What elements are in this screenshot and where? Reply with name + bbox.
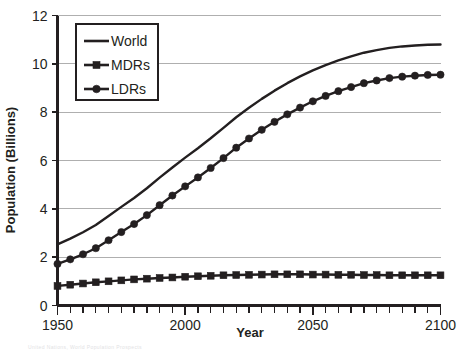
x-tick-label-2000: 2000: [170, 317, 201, 333]
chart-canvas: 024681012 1950200020502100 Year Populati…: [0, 0, 468, 350]
data-point: [424, 71, 431, 78]
legend-label-ldrs: LDRs: [111, 81, 146, 97]
data-point: [361, 272, 368, 279]
data-point: [67, 256, 74, 263]
x-tick-label-1950: 1950: [42, 317, 73, 333]
chart-background: [0, 0, 468, 350]
data-point: [79, 251, 86, 258]
data-point: [258, 126, 265, 133]
data-point: [220, 272, 227, 279]
data-point: [156, 275, 163, 282]
y-tick-label-8: 8: [40, 104, 48, 120]
data-point: [373, 77, 380, 84]
data-point: [335, 271, 342, 278]
data-point: [118, 277, 125, 284]
data-point: [80, 280, 87, 287]
data-point: [195, 273, 202, 280]
data-point: [424, 272, 431, 279]
y-tick-label-6: 6: [40, 153, 48, 169]
chart-legend: WorldMDRsLDRs: [76, 24, 158, 100]
data-point: [322, 92, 329, 99]
data-point: [92, 279, 99, 286]
data-point: [54, 260, 61, 267]
data-point: [373, 272, 380, 279]
data-point: [322, 271, 329, 278]
data-point: [437, 272, 444, 279]
data-point: [131, 220, 138, 227]
legend-marker-mdrs: [93, 62, 100, 69]
y-tick-label-4: 4: [40, 201, 48, 217]
data-point: [156, 202, 163, 209]
data-point: [309, 98, 316, 105]
data-point: [54, 283, 61, 290]
data-point: [297, 271, 304, 278]
legend-label-world: World: [111, 33, 147, 49]
data-point: [246, 271, 253, 278]
data-point: [348, 83, 355, 90]
x-tick-label-2050: 2050: [297, 317, 328, 333]
data-point: [182, 183, 189, 190]
data-point: [437, 71, 444, 78]
x-tick-label-2100: 2100: [425, 317, 456, 333]
data-point: [92, 245, 99, 252]
y-tick-label-2: 2: [40, 249, 48, 265]
y-tick-label-0: 0: [40, 298, 48, 314]
data-point: [143, 212, 150, 219]
data-point: [284, 271, 291, 278]
data-point: [207, 164, 214, 171]
x-axis-title: Year: [236, 325, 263, 340]
data-point: [284, 111, 291, 118]
data-point: [169, 192, 176, 199]
data-point: [143, 275, 150, 282]
legend-marker-ldrs: [93, 85, 101, 93]
data-point: [207, 272, 214, 279]
data-point: [194, 174, 201, 181]
data-point: [412, 272, 419, 279]
data-point: [67, 281, 74, 288]
y-tick-label-10: 10: [32, 56, 48, 72]
data-point: [220, 154, 227, 161]
data-point: [118, 228, 125, 235]
data-point: [258, 271, 265, 278]
data-point: [182, 273, 189, 280]
data-point: [411, 72, 418, 79]
population-chart: 024681012 1950200020502100 Year Populati…: [0, 0, 468, 350]
data-point: [386, 272, 393, 279]
source-footnote: United Nations, World Population Prospec…: [28, 344, 142, 350]
data-point: [105, 278, 112, 285]
data-point: [131, 276, 138, 283]
data-point: [233, 272, 240, 279]
data-point: [335, 88, 342, 95]
legend-label-mdrs: MDRs: [111, 57, 150, 73]
data-point: [169, 274, 176, 281]
data-point: [360, 80, 367, 87]
data-point: [233, 144, 240, 151]
y-tick-label-12: 12: [32, 8, 48, 24]
data-point: [348, 271, 355, 278]
data-point: [105, 237, 112, 244]
y-axis-title: Population (Billions): [3, 107, 18, 233]
data-point: [296, 104, 303, 111]
data-point: [271, 271, 278, 278]
data-point: [386, 74, 393, 81]
data-point: [399, 73, 406, 80]
data-point: [271, 118, 278, 125]
data-point: [399, 272, 406, 279]
data-point: [245, 135, 252, 142]
data-point: [309, 271, 316, 278]
